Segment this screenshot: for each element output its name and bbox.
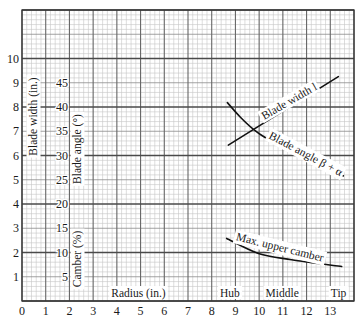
blade-width-curve-label-text: Blade width l bbox=[259, 80, 319, 121]
propeller-blade-design-chart: 0123456789101112131234567891020253035404… bbox=[0, 0, 364, 323]
camber-axis-title: Camber (%) bbox=[71, 229, 85, 290]
x-tick-label: 2 bbox=[66, 304, 72, 318]
x-tick-label: 13 bbox=[324, 304, 336, 318]
blade-angle-tick-label: 25 bbox=[56, 173, 68, 187]
blade-width-tick-label: 9 bbox=[13, 76, 19, 90]
x-tick-label: 11 bbox=[277, 304, 289, 318]
blade-width-tick-label: 8 bbox=[13, 100, 19, 114]
x-tick-label: 3 bbox=[90, 304, 96, 318]
x-tick-label: 6 bbox=[161, 304, 167, 318]
hub-marker-text: Hub bbox=[220, 287, 240, 299]
hub-marker: Hub bbox=[218, 286, 242, 299]
chart-canvas: 0123456789101112131234567891020253035404… bbox=[0, 0, 364, 323]
camber-tick-label: 10 bbox=[56, 246, 68, 260]
blade-width-tick-label: 10 bbox=[7, 52, 19, 66]
x-tick-label: 10 bbox=[253, 304, 265, 318]
blade-angle-tick-label: 45 bbox=[56, 76, 68, 90]
tip-marker-text: Tip bbox=[331, 287, 347, 300]
x-tick-label: 9 bbox=[232, 304, 238, 318]
blade-width-axis-title: Blade width (in.) bbox=[27, 75, 41, 157]
camber-tick-label: 15 bbox=[56, 221, 68, 235]
camber-tick-label: 20 bbox=[56, 197, 68, 211]
blade-width-tick-label: 6 bbox=[13, 149, 19, 163]
blade-angle-axis-title: Blade angle (°) bbox=[71, 112, 85, 186]
blade-width-tick-label: 2 bbox=[13, 246, 19, 260]
camber-tick-label: 5 bbox=[62, 270, 68, 284]
x-tick-label: 7 bbox=[185, 304, 191, 318]
camber-axis-title-text: Camber (%) bbox=[71, 231, 84, 288]
x-tick-label: 1 bbox=[43, 304, 49, 318]
radius-axis-title: Radius (in.) bbox=[109, 286, 167, 300]
blade-width-tick-label: 3 bbox=[13, 221, 19, 235]
middle-marker-text: Middle bbox=[266, 287, 299, 299]
blade-width-tick-label: 7 bbox=[13, 124, 19, 138]
blade-width-axis-title-text: Blade width (in.) bbox=[27, 77, 40, 155]
middle-marker: Middle bbox=[264, 286, 301, 299]
blade-angle-axis-title-text: Blade angle (°) bbox=[71, 114, 84, 184]
blade-width-tick-label: 5 bbox=[13, 173, 19, 187]
blade-width-tick-label: 4 bbox=[13, 197, 19, 211]
blade-angle-curve-label: Blade angle β + α bbox=[265, 128, 347, 181]
x-tick-label: 4 bbox=[114, 304, 120, 318]
radius-axis-title-text: Radius (in.) bbox=[111, 287, 165, 300]
x-tick-label: 8 bbox=[209, 304, 215, 318]
blade-angle-tick-label: 35 bbox=[56, 124, 68, 138]
x-tick-label: 5 bbox=[138, 304, 144, 318]
axis-titles: Blade width (in.)Blade angle (°)Camber (… bbox=[27, 75, 168, 300]
blade-width-tick-label: 1 bbox=[13, 270, 19, 284]
tip-marker: Tip bbox=[329, 286, 349, 300]
blade-angle-tick-label: 30 bbox=[56, 149, 68, 163]
x-tick-label: 12 bbox=[301, 304, 313, 318]
blade-angle-tick-label: 40 bbox=[56, 100, 68, 114]
x-tick-label: 0 bbox=[19, 304, 25, 318]
